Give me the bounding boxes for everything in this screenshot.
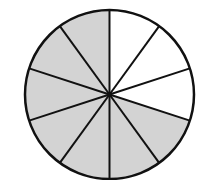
center-point	[107, 92, 112, 97]
fraction-circle-diagram	[0, 0, 207, 180]
